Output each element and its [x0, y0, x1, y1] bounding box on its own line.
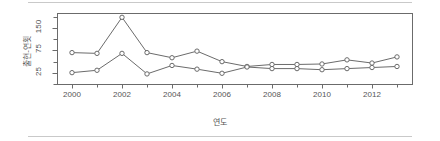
data-point [370, 65, 374, 69]
data-point [195, 67, 199, 71]
data-point [145, 50, 149, 54]
y-tick-label: 150 [34, 15, 43, 37]
x-tick-label: 2002 [113, 90, 131, 99]
data-point [245, 65, 249, 69]
x-axis-title: 연도 [0, 116, 440, 127]
y-tick-label: 75 [34, 38, 43, 60]
data-point [345, 66, 349, 70]
data-point [220, 59, 224, 63]
data-point [195, 49, 199, 53]
x-axis-ticks [73, 85, 398, 89]
y-axis-ticks [53, 18, 58, 85]
chart-figure: 출현-연횟 연도 2000200220042006200820102012 25… [0, 0, 440, 141]
data-point [120, 51, 124, 55]
data-point [70, 70, 74, 74]
data-point [395, 64, 399, 68]
data-point [345, 58, 349, 62]
data-point [120, 15, 124, 19]
y-tick-label: 25 [34, 60, 43, 82]
data-point [70, 50, 74, 54]
data-point [295, 66, 299, 70]
data-series-group [70, 15, 399, 76]
data-point [220, 71, 224, 75]
plot-frame [58, 14, 413, 85]
data-point [145, 72, 149, 76]
data-point [320, 68, 324, 72]
data-point [320, 62, 324, 66]
x-tick-label: 2008 [263, 90, 281, 99]
x-tick-label: 2004 [163, 90, 181, 99]
data-point [370, 61, 374, 65]
data-point [270, 66, 274, 70]
data-point [170, 63, 174, 67]
data-point [95, 68, 99, 72]
x-tick-label: 2006 [213, 90, 231, 99]
y-axis-title: 출현-연횟 [21, 20, 32, 84]
x-tick-label: 2012 [363, 90, 381, 99]
x-tick-label: 2000 [63, 90, 81, 99]
x-tick-label: 2010 [313, 90, 331, 99]
data-point [395, 55, 399, 59]
data-point [95, 51, 99, 55]
data-point [170, 56, 174, 60]
